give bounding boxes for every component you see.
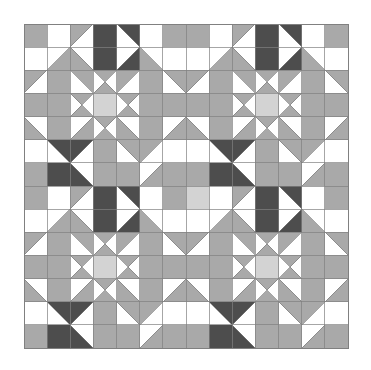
quilt-patch-solid (24, 163, 47, 186)
quilt-patch-solid (325, 186, 348, 209)
quilt-patch-solid (93, 186, 116, 209)
quilt-patch-solid (186, 255, 209, 278)
quilt-patch-solid (47, 325, 70, 348)
quilt-patch-solid (140, 117, 163, 140)
quilt-patch-solid (209, 163, 232, 186)
quilt-patch-solid (255, 186, 278, 209)
quilt-patch-solid (255, 140, 278, 163)
quilt-patch-solid (255, 302, 278, 325)
quilt-patch-solid (302, 117, 325, 140)
quilt-patch-solid (93, 163, 116, 186)
quilt-patch-solid (24, 186, 47, 209)
quilt-patch-solid (93, 140, 116, 163)
quilt-patch-solid (209, 24, 232, 47)
quilt-patch-solid (47, 117, 70, 140)
quilt-patch-solid (24, 140, 47, 163)
quilt-patch-solid (279, 163, 302, 186)
quilt-patch-solid (93, 209, 116, 232)
quilt-patch-solid (255, 163, 278, 186)
quilt-patch-solid (47, 255, 70, 278)
quilt-patch-solid (186, 24, 209, 47)
quilt-patch-solid (186, 186, 209, 209)
quilt-patch-solid (186, 163, 209, 186)
quilt-patch-solid (24, 93, 47, 116)
quilt-patch-solid (47, 163, 70, 186)
quilt-patch-solid (47, 232, 70, 255)
quilt-patch-solid (255, 47, 278, 70)
quilt-patch-solid (117, 163, 140, 186)
quilt-patch-solid (24, 47, 47, 70)
quilt-patch-solid (47, 186, 70, 209)
quilt-patch-solid (209, 255, 232, 278)
quilt-stage (0, 0, 371, 370)
quilt-patch-solid (302, 186, 325, 209)
quilt-patch-solid (325, 163, 348, 186)
quilt-patch-solid (140, 93, 163, 116)
quilt-patch-solid (163, 209, 186, 232)
quilt-patch-solid (47, 24, 70, 47)
quilt-patch-solid (209, 232, 232, 255)
quilt-patch-solid (163, 325, 186, 348)
quilt-patch-solid (325, 209, 348, 232)
quilt-patch-solid (255, 325, 278, 348)
quilt-patch-solid (302, 232, 325, 255)
quilt-patch-solid (186, 47, 209, 70)
quilt-patch-solid (209, 279, 232, 302)
quilt-patch-solid (93, 93, 116, 116)
quilt-patch-solid (209, 325, 232, 348)
quilt-patch-solid (163, 47, 186, 70)
quilt-patch-solid (140, 186, 163, 209)
quilt-patch-solid (302, 24, 325, 47)
quilt-patch-solid (163, 93, 186, 116)
quilt-patch-solid (93, 24, 116, 47)
quilt-patch-solid (163, 186, 186, 209)
quilt-patch-solid (325, 47, 348, 70)
quilt-patch-solid (93, 302, 116, 325)
quilt-patch-solid (302, 70, 325, 93)
quilt-artwork (0, 0, 371, 370)
quilt-patch-solid (163, 163, 186, 186)
quilt-patch-solid (186, 325, 209, 348)
quilt-patch-solid (255, 255, 278, 278)
quilt-patch-solid (186, 140, 209, 163)
quilt-patch-solid (209, 186, 232, 209)
quilt-patch-solid (47, 93, 70, 116)
quilt-patch-solid (279, 325, 302, 348)
quilt-patch-solid (209, 70, 232, 93)
quilt-patch-solid (47, 70, 70, 93)
quilt-patch-solid (186, 302, 209, 325)
quilt-patch-solid (325, 93, 348, 116)
quilt-patch-solid (93, 47, 116, 70)
quilt-patch-solid (24, 24, 47, 47)
quilt-patch-solid (325, 325, 348, 348)
quilt-patch-solid (302, 255, 325, 278)
quilt-patch-solid (186, 93, 209, 116)
quilt-patch-solid (209, 117, 232, 140)
quilt-patch-solid (140, 232, 163, 255)
quilt-patch-solid (325, 140, 348, 163)
quilt-patch-solid (325, 302, 348, 325)
quilt-patch-solid (325, 24, 348, 47)
quilt-patch-solid (163, 24, 186, 47)
quilt-patch-solid (255, 209, 278, 232)
quilt-patch-solid (24, 209, 47, 232)
quilt-patch-solid (24, 325, 47, 348)
quilt-patch-solid (24, 255, 47, 278)
quilt-patch-solid (93, 325, 116, 348)
quilt-patch-solid (117, 325, 140, 348)
quilt-patch-solid (186, 209, 209, 232)
quilt-patch-solid (140, 255, 163, 278)
quilt-patch-solid (163, 302, 186, 325)
quilt-patch-solid (47, 279, 70, 302)
quilt-patch-solid (140, 70, 163, 93)
quilt-patch-solid (255, 24, 278, 47)
quilt-patch-solid (209, 93, 232, 116)
quilt-patch-solid (255, 93, 278, 116)
quilt-patch-solid (163, 140, 186, 163)
quilt-patch-solid (302, 93, 325, 116)
quilt-patch-solid (140, 279, 163, 302)
quilt-patch-solid (140, 24, 163, 47)
quilt-patch-solid (325, 255, 348, 278)
quilt-patch-solid (302, 279, 325, 302)
quilt-patch-solid (93, 255, 116, 278)
